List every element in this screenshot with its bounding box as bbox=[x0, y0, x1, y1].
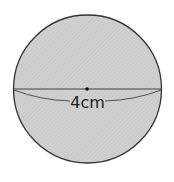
diameter-label: 4cm bbox=[70, 93, 105, 112]
circle-diagram: 4cm bbox=[0, 0, 174, 182]
center-point bbox=[85, 87, 89, 91]
